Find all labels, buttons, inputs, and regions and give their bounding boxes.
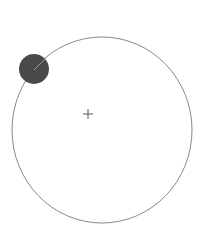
drag-handle-circle[interactable] (19, 54, 49, 84)
center-crosshair-icon (83, 109, 93, 119)
orbit-diagram (0, 0, 203, 239)
